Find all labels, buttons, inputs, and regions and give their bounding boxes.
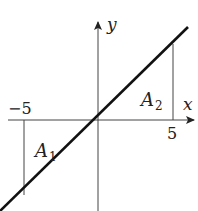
line-y-equals-x	[0, 27, 188, 211]
svg-text:A: A	[33, 140, 48, 161]
svg-text:1: 1	[49, 150, 57, 164]
y-axis-label: y	[106, 14, 117, 34]
x-axis-label: x	[183, 94, 193, 114]
region-label-a1: A 1	[33, 140, 57, 164]
tick-label-neg5: −5	[8, 99, 32, 118]
svg-text:2: 2	[155, 99, 163, 113]
svg-text:A: A	[139, 89, 154, 110]
diagram-canvas: y x −5 5 A 1 A 2	[0, 0, 198, 211]
region-label-a2: A 2	[139, 89, 163, 113]
tick-label-pos5: 5	[167, 124, 177, 143]
